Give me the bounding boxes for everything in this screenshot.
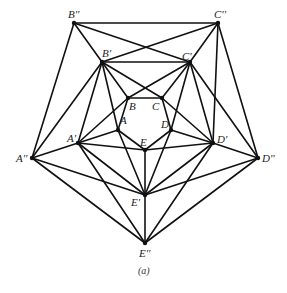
vertex-label-C1: C'	[182, 50, 192, 62]
vertex-label-B2: B''	[68, 8, 80, 20]
vertex-label-B: B	[129, 100, 136, 112]
vertex-B2	[72, 21, 76, 25]
edge-A-A1	[78, 130, 118, 143]
edge-B1-C2	[102, 23, 218, 62]
vertex-label-B1: B'	[102, 47, 112, 59]
edge-D1-E2	[145, 143, 213, 243]
vertex-label-D1: D'	[216, 133, 228, 145]
edge-A1-B1	[78, 62, 102, 143]
edge-D1-E	[145, 143, 213, 150]
edge-C2-D1	[213, 23, 218, 143]
edge-A1-E	[78, 143, 145, 150]
vertex-label-D: D	[160, 118, 169, 130]
edge-C1-D1	[190, 62, 213, 143]
vertex-label-E1: E'	[130, 196, 141, 208]
edge-D1-D2	[213, 143, 258, 158]
vertex-A	[116, 128, 120, 132]
edge-D1-C	[162, 98, 213, 143]
vertex-D1	[211, 141, 215, 145]
edge-D2-E1	[145, 158, 258, 195]
vertex-label-E: E	[139, 136, 147, 148]
vertex-label-C: C	[152, 100, 160, 112]
edge-B1-C	[102, 62, 162, 98]
vertex-D2	[256, 156, 260, 160]
vertex-label-A2: A''	[15, 152, 28, 164]
vertex-label-E2: E''	[138, 247, 151, 259]
edge-D2-E2	[145, 158, 258, 243]
edge-E2-A1	[78, 143, 145, 243]
vertex-A2	[30, 156, 34, 160]
edge-A2-E1	[32, 158, 145, 195]
vertex-B1	[100, 60, 104, 64]
vertex-E1	[143, 193, 147, 197]
vertex-label-D2: D''	[261, 152, 275, 164]
figure-caption: (a)	[138, 265, 150, 277]
edge-C1-C2	[190, 23, 218, 62]
vertex-E2	[143, 241, 147, 245]
vertex-label-A1: A'	[66, 132, 77, 144]
vertex-label-C2: C''	[214, 8, 227, 20]
vertex-E	[143, 148, 147, 152]
vertex-C	[160, 96, 164, 100]
edge-E2-A2	[32, 158, 145, 243]
edge-B1-B2	[74, 23, 102, 62]
vertex-D	[169, 128, 173, 132]
edge-B2-C1	[74, 23, 190, 62]
edge-A1-A2	[32, 143, 78, 158]
vertex-C2	[216, 21, 220, 25]
vertex-label-A: A	[119, 114, 127, 126]
vertex-A1	[76, 141, 80, 145]
graph-diagram: ABCDEA'B'C'D'E'A''B''C''D''E'' (a)	[0, 0, 287, 293]
